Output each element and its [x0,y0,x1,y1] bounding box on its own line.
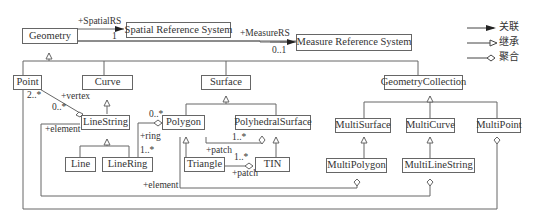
ring-role-label: +ring [140,132,161,142]
class-geometry-label: Geometry [29,31,71,42]
polygon-element-role-label: +element [143,181,178,191]
class-triangle-label: Triangle [187,159,222,170]
class-polygon: Polygon [162,115,205,130]
class-multi-point: MultiPoint [477,118,521,133]
class-measure-rs-label: Measure Reference System [297,37,412,48]
class-geometry-collection-label: GeometryCollection [381,77,467,88]
linestring-element-role-label: +element [45,125,80,135]
class-linering-label: LineRing [108,159,148,170]
spatial-rs-multiplicity: 1 [112,32,117,42]
class-multi-curve: MultiCurve [406,118,455,133]
class-polygon-label: Polygon [166,117,201,128]
measure-rs-multiplicity: 0..1 [272,46,286,56]
vertex-point-multiplicity: 2..* [27,91,41,101]
vertex-linestring-multiplicity: 0..* [52,103,66,113]
class-tin: TIN [255,157,290,172]
class-geometry-collection: GeometryCollection [384,75,463,90]
class-geometry: Geometry [22,28,78,44]
legend-association-arrow-icon [486,25,496,31]
class-line-label: Line [71,159,90,170]
class-multi-linestring-label: MultiLineString [404,160,472,171]
patch-polygon-multiplicity: 1..* [232,133,246,143]
class-multi-surface-label: MultiSurface [335,120,390,131]
class-spatial-reference-system: Spatial Reference System [126,22,231,38]
class-triangle: Triangle [184,157,225,172]
class-multi-linestring: MultiLineString [402,158,475,173]
legend-association-label: 关联 [499,22,519,32]
legend-inheritance-arrow-icon [490,40,497,46]
class-polyhedral-surface: PolyhedralSurface [235,115,311,130]
class-linering: LineRing [102,157,153,172]
class-spatial-rs-label: Spatial Reference System [125,25,233,36]
class-multi-polygon-label: MultiPolygon [327,160,385,171]
class-multi-surface: MultiSurface [335,118,391,133]
class-point-label: Point [16,77,38,88]
class-tin-label: TIN [264,159,282,170]
class-multi-curve-label: MultiCurve [406,120,455,131]
class-polyhedral-surface-label: PolyhedralSurface [234,117,312,128]
measure-rs-role-label: +MeasureRS [240,29,290,39]
legend-aggregation-diamond-icon [487,55,495,61]
legend-aggregation-label: 聚合 [499,52,519,62]
patch-triangle-role-label: +patch [232,169,258,179]
class-curve: Curve [82,75,133,90]
legend-inheritance-label: 继承 [499,37,519,47]
spatial-rs-role-label: +SpatialRS [78,17,121,27]
class-surface-label: Surface [210,77,242,88]
class-line: Line [65,157,96,172]
class-linestring-label: LineString [83,117,128,128]
class-multi-point-label: MultiPoint [476,120,522,131]
patch-triangle-multiplicity: 1..* [234,153,248,163]
vertex-role-label: +vertex [61,92,90,102]
class-measure-reference-system: Measure Reference System [296,34,412,51]
ring-linering-multiplicity: 1..* [140,146,154,156]
class-point: Point [13,75,42,90]
ring-polygon-multiplicity: 0..* [149,110,163,120]
class-curve-label: Curve [95,77,121,88]
class-surface: Surface [201,75,251,90]
class-linestring: LineString [81,115,130,130]
patch-polygon-role-label: +patch [206,146,232,156]
class-multi-polygon: MultiPolygon [326,158,387,173]
